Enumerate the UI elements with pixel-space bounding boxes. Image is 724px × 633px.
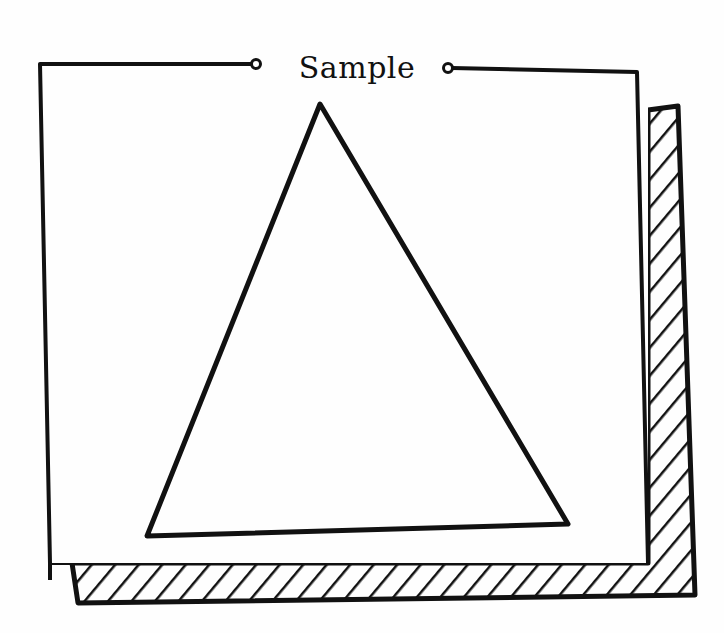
title-left-knob-icon	[252, 60, 261, 69]
title-right-knob-icon	[444, 64, 453, 73]
panel-title: Sample	[292, 50, 422, 85]
sketch-canvas: Sample	[0, 0, 724, 633]
sketch-drawing	[0, 0, 724, 633]
